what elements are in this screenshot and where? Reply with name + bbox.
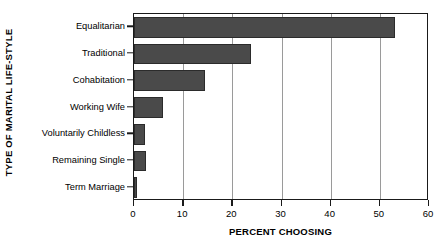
bar [134,70,205,91]
bar-chart-figure: TYPE OF MARITAL LIFE-STYLE EqualitarianT… [0,0,446,249]
y-axis-tick-label: Equalitarian [18,21,125,31]
y-axis-tick-label: Traditional [18,48,125,58]
bar [134,44,251,65]
x-axis-tick [231,200,232,206]
plot-inner [134,14,427,199]
x-axis-tick-label: 30 [275,208,286,219]
y-axis-tick-label: Voluntarily Childless [18,128,125,138]
gridline [282,14,283,199]
bar [134,124,145,145]
plot-area [133,13,428,200]
x-axis-tick-label: 0 [130,208,135,219]
gridline [331,14,332,199]
x-axis-tick [330,200,331,206]
x-axis-tick [428,200,429,206]
bar [134,17,395,38]
gridline [183,14,184,199]
x-axis-tick-label: 60 [423,208,434,219]
y-axis-tick-labels: EqualitarianTraditionalCohabitationWorki… [18,13,125,200]
y-axis-tick-label: Cohabitation [18,75,125,85]
x-axis-title: PERCENT CHOOSING [133,226,428,237]
bar [134,97,163,118]
y-axis-tick-label: Working Wife [18,102,125,112]
x-axis-tick [281,200,282,206]
gridline [232,14,233,199]
x-axis-tick [182,200,183,206]
bar [134,177,137,198]
y-axis-title-text: TYPE OF MARITAL LIFE-STYLE [4,29,15,176]
x-axis-tick-label: 10 [177,208,188,219]
x-axis-tick [379,200,380,206]
y-axis-title: TYPE OF MARITAL LIFE-STYLE [0,0,18,205]
x-axis-tick-label: 50 [374,208,385,219]
x-axis-tick-label: 40 [324,208,335,219]
bar [134,151,146,172]
y-axis-tick-label: Term Marriage [18,182,125,192]
x-axis-tick [133,200,134,206]
gridline [380,14,381,199]
y-axis-tick-label: Remaining Single [18,155,125,165]
x-axis-tick-label: 20 [226,208,237,219]
